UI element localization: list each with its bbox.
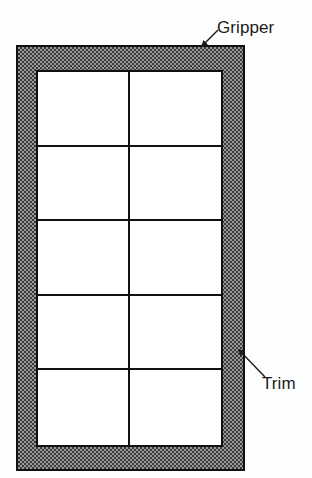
callout-label-gripper: Gripper <box>217 19 274 37</box>
pane-r5c2 <box>130 370 222 445</box>
pane-r4c1 <box>38 296 130 371</box>
pane-grid <box>38 72 221 445</box>
glazing-panel <box>36 70 223 447</box>
pane-r2c1 <box>38 147 130 222</box>
pane-r4c2 <box>130 296 222 371</box>
pane-r5c1 <box>38 370 130 445</box>
callout-label-trim: Trim <box>262 375 296 393</box>
pane-r1c2 <box>130 72 222 147</box>
pane-r3c2 <box>130 221 222 296</box>
pane-r2c2 <box>130 147 222 222</box>
pane-r1c1 <box>38 72 130 147</box>
pane-r3c1 <box>38 221 130 296</box>
diagram-canvas: Gripper Trim <box>0 0 312 478</box>
